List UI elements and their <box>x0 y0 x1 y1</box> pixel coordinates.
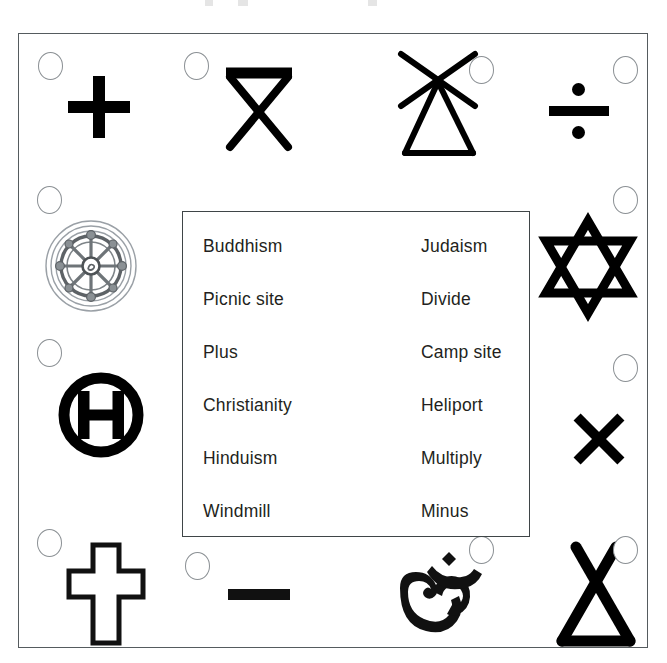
answer-bubble-minus[interactable] <box>185 552 210 580</box>
heliport-symbol[interactable] <box>55 369 147 461</box>
page-top-text-artifact <box>205 0 213 6</box>
dharma-wheel-symbol[interactable] <box>41 216 141 316</box>
word-bank-item[interactable]: Christianity <box>203 397 421 450</box>
worksheet-frame: Buddhism Judaism Picnic site Divide Plus… <box>18 33 648 648</box>
plus-vertical-bar <box>93 76 105 138</box>
star-of-david-symbol[interactable] <box>535 214 640 319</box>
divide-top-dot <box>572 83 585 96</box>
word-bank-item[interactable]: Plus <box>203 344 421 397</box>
answer-bubble-heliport[interactable] <box>37 339 62 367</box>
word-bank-grid: Buddhism Judaism Picnic site Divide Plus… <box>203 238 529 556</box>
christian-cross-symbol[interactable] <box>59 539 149 649</box>
page-top-text-artifact <box>368 0 377 6</box>
answer-bubble-divide[interactable] <box>613 56 638 84</box>
divide-bar <box>549 106 609 116</box>
word-bank-box: Buddhism Judaism Picnic site Divide Plus… <box>182 211 530 537</box>
plus-symbol[interactable] <box>64 72 134 142</box>
star-of-david-glyph <box>538 215 638 319</box>
page-top-text-artifact <box>238 0 248 6</box>
heliport-glyph <box>57 371 145 459</box>
minus-symbol[interactable] <box>224 564 294 624</box>
picnic-table-glyph <box>214 59 304 154</box>
word-bank-item[interactable]: Minus <box>421 503 529 556</box>
word-bank-item[interactable]: Multiply <box>421 450 529 503</box>
divide-bottom-dot <box>572 126 585 139</box>
multiply-symbol[interactable] <box>564 404 634 474</box>
word-bank-item[interactable]: Picnic site <box>203 291 421 344</box>
worksheet-page: Buddhism Judaism Picnic site Divide Plus… <box>0 0 667 663</box>
word-bank-item[interactable]: Divide <box>421 291 529 344</box>
picnic-site-symbol[interactable] <box>214 56 304 156</box>
minus-bar <box>228 589 290 600</box>
divide-symbol[interactable] <box>544 76 614 146</box>
answer-bubble-windmill[interactable] <box>469 56 494 84</box>
word-bank-item[interactable]: Judaism <box>421 238 529 291</box>
answer-bubble-plus[interactable] <box>38 52 63 80</box>
answer-bubble-judaism[interactable] <box>613 186 638 214</box>
answer-bubble-multiply[interactable] <box>613 354 638 382</box>
christian-cross-glyph <box>63 541 145 647</box>
word-bank-item[interactable]: Windmill <box>203 503 421 556</box>
word-bank-item[interactable]: Heliport <box>421 397 529 450</box>
word-bank-item[interactable]: Hinduism <box>203 450 421 503</box>
answer-bubble-camp-site[interactable] <box>613 536 638 564</box>
word-bank-item[interactable]: Camp site <box>421 344 529 397</box>
dharma-wheel-glyph <box>43 218 139 314</box>
word-bank-item[interactable]: Buddhism <box>203 238 421 291</box>
answer-bubble-picnic-site[interactable] <box>184 52 209 80</box>
answer-bubble-buddhism[interactable] <box>37 186 62 214</box>
